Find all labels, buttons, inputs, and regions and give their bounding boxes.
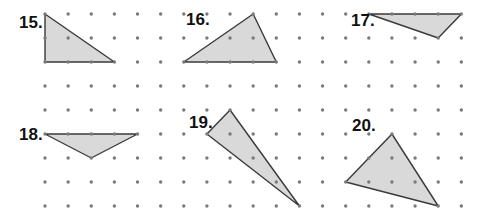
grid-dot	[298, 204, 301, 207]
grid-dot	[344, 156, 347, 159]
grid-dot	[113, 108, 116, 111]
grid-dot	[321, 12, 324, 15]
grid-dot	[66, 60, 69, 63]
grid-dot	[205, 156, 208, 159]
grid-dot	[321, 180, 324, 183]
grid-dot	[413, 108, 416, 111]
grid-dot	[182, 108, 185, 111]
grid-dot	[159, 12, 162, 15]
grid-dot	[413, 132, 416, 135]
grid-dot	[344, 36, 347, 39]
grid-dot	[66, 108, 69, 111]
grid-dot	[298, 156, 301, 159]
grid-dot	[113, 180, 116, 183]
problem-label: 15.	[19, 13, 43, 32]
grid-dot	[113, 12, 116, 15]
problem-label: 20.	[352, 116, 376, 135]
grid-dot	[437, 132, 440, 135]
grid-dot	[251, 36, 254, 39]
grid-dot	[251, 204, 254, 207]
grid-dot	[367, 180, 370, 183]
grid-dot	[344, 132, 347, 135]
grid-dot	[113, 204, 116, 207]
grid-dot	[437, 36, 440, 39]
grid-dot	[43, 12, 46, 15]
grid-dot	[90, 60, 93, 63]
grid-dot	[413, 204, 416, 207]
grid-dot	[460, 108, 463, 111]
grid-dot	[321, 36, 324, 39]
grid-dot	[90, 36, 93, 39]
grid-dot	[182, 84, 185, 87]
grid-dot	[90, 132, 93, 135]
grid-dot	[43, 156, 46, 159]
grid-dot	[413, 12, 416, 15]
grid-dot	[298, 108, 301, 111]
grid-dot	[205, 132, 208, 135]
grid-dot	[136, 60, 139, 63]
grid-dot	[390, 132, 393, 135]
grid-dot	[367, 36, 370, 39]
grid-dot	[460, 84, 463, 87]
grid-dot	[275, 36, 278, 39]
grid-dot	[182, 36, 185, 39]
grid-dot	[437, 84, 440, 87]
grid-dot	[437, 204, 440, 207]
grid-dot	[390, 180, 393, 183]
grid-dot	[321, 132, 324, 135]
grid-dot	[182, 12, 185, 15]
grid-dot	[367, 60, 370, 63]
grid-dot	[136, 132, 139, 135]
grid-dot	[90, 204, 93, 207]
triangle-18	[45, 134, 138, 158]
grid-dot	[182, 132, 185, 135]
triangle-15	[45, 14, 114, 62]
grid-dot	[228, 204, 231, 207]
grid-dot	[66, 180, 69, 183]
grid-dot	[228, 36, 231, 39]
grid-dot	[43, 204, 46, 207]
grid-dot	[390, 84, 393, 87]
grid-dot	[251, 12, 254, 15]
grid-dot	[390, 108, 393, 111]
grid-dot	[251, 132, 254, 135]
grid-dot	[228, 60, 231, 63]
grid-dot	[275, 84, 278, 87]
grid-dot	[159, 132, 162, 135]
grid-dot	[344, 204, 347, 207]
grid-dot	[228, 132, 231, 135]
grid-dot	[228, 84, 231, 87]
grid-dot	[113, 36, 116, 39]
grid-dot	[136, 204, 139, 207]
grid-dot	[251, 84, 254, 87]
grid-dot	[90, 84, 93, 87]
grid-dot	[90, 180, 93, 183]
grid-dot	[321, 204, 324, 207]
grid-dot	[159, 204, 162, 207]
grid-dot	[390, 60, 393, 63]
grid-dot	[136, 108, 139, 111]
grid-dot	[367, 204, 370, 207]
grid-dot	[66, 12, 69, 15]
grid-dot	[66, 132, 69, 135]
grid-dot	[460, 156, 463, 159]
grid-dot	[205, 204, 208, 207]
grid-dot	[205, 84, 208, 87]
problem-label: 19.	[189, 113, 213, 132]
grid-dot	[43, 36, 46, 39]
grid-dot	[390, 36, 393, 39]
grid-dot	[344, 108, 347, 111]
grid-dot	[228, 12, 231, 15]
grid-dot	[298, 12, 301, 15]
grid-dot	[460, 180, 463, 183]
grid-dot	[275, 108, 278, 111]
grid-dot	[460, 36, 463, 39]
grid-dot	[136, 84, 139, 87]
grid-dot	[159, 180, 162, 183]
grid-dot	[43, 60, 46, 63]
grid-dot	[298, 60, 301, 63]
triangle-20	[346, 134, 439, 206]
grid-dot	[460, 204, 463, 207]
grid-dot	[182, 204, 185, 207]
grid-dot	[251, 180, 254, 183]
